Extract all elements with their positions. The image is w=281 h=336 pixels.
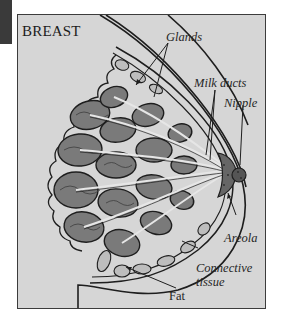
corner-strip: [0, 0, 12, 44]
label-connective-tissue-line1: Connective: [196, 262, 252, 275]
label-areola: Areola: [224, 232, 258, 245]
label-nipple: Nipple: [224, 97, 257, 110]
gland-lobes: [54, 83, 197, 260]
diagram-frame: BREAST Glands Milk ducts Nipple Areola C…: [17, 14, 266, 309]
areola-nipple: [218, 153, 246, 197]
label-glands: Glands: [166, 31, 202, 44]
label-connective-tissue-line2: tissue: [196, 276, 224, 289]
label-fat: Fat: [169, 290, 185, 303]
label-milk-ducts: Milk ducts: [194, 77, 246, 90]
diagram-title: BREAST: [22, 23, 81, 40]
